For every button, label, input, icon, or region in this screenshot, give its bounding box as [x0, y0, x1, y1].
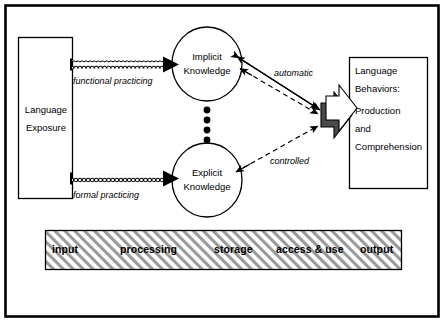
knowledge-link-beads: [204, 107, 211, 144]
process-stage-processing: processing: [120, 243, 214, 255]
process-stage-access-use: access & use: [276, 243, 360, 255]
diagram-canvas: [0, 0, 445, 323]
language-exposure-line2: Exposure: [22, 119, 70, 137]
controlled-label: controlled: [270, 155, 309, 167]
explicit-knowledge-label: Explicit Knowledge: [172, 166, 242, 194]
language-processing-diagram: Language Exposure Implicit Knowledge Exp…: [0, 0, 445, 323]
language-exposure-line1: Language: [22, 101, 70, 119]
implicit-knowledge-label: Implicit Knowledge: [172, 50, 242, 78]
language-behaviors-line2: Behaviors:: [355, 80, 422, 98]
automatic-label: automatic: [274, 67, 313, 79]
explicit-knowledge-line2: Knowledge: [172, 180, 242, 194]
process-bar-labels: input processing storage access & use ou…: [52, 243, 395, 255]
process-stage-input: input: [52, 243, 120, 255]
language-behaviors-line5: Comprehension: [355, 138, 422, 156]
language-exposure-label: Language Exposure: [22, 101, 70, 137]
language-behaviors-label: Language Behaviors: Production and Compr…: [355, 62, 422, 156]
language-behaviors-line3: Production: [355, 102, 422, 120]
functional-practicing-arrow: [70, 57, 179, 73]
language-behaviors-line1: Language: [355, 62, 422, 80]
implicit-knowledge-line2: Knowledge: [172, 64, 242, 78]
language-behaviors-line4: and: [355, 120, 422, 138]
formal-practicing-label: formal practicing: [73, 189, 139, 201]
process-stage-storage: storage: [214, 243, 276, 255]
process-stage-output: output: [360, 243, 393, 255]
explicit-knowledge-line1: Explicit: [172, 166, 242, 180]
implicit-knowledge-line1: Implicit: [172, 50, 242, 64]
formal-practicing-arrow: [70, 171, 179, 187]
functional-practicing-label: functional practicing: [73, 75, 153, 87]
